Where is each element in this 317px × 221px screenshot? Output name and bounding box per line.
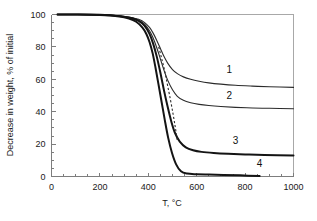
chart-figure: 02004006008001000020406080100 1234 T, °C… [0,0,317,221]
curve-2 [58,14,294,108]
chart-canvas: 02004006008001000020406080100 1234 T, °C… [0,0,317,221]
y-tick-label: 80 [35,42,45,52]
x-tick-label: 400 [141,182,156,192]
curve-1 [58,14,294,87]
data-curves [58,14,294,176]
y-tick-label: 60 [35,75,45,85]
y-tick-label: 100 [30,10,45,20]
y-tick-label: 0 [40,172,45,182]
y-axis-title: Decrease in weight, % of initial [5,34,15,157]
x-tick-label: 1000 [283,182,303,192]
curve-label-4: 4 [257,158,263,169]
curve-3 [58,14,294,155]
curve-label-2: 2 [227,90,233,101]
y-tick-label: 40 [35,107,45,117]
x-tick-label: 0 [49,182,54,192]
curve-label-1: 1 [227,64,233,75]
x-tick-label: 800 [238,182,253,192]
x-tick-label: 200 [92,182,107,192]
x-axis-title: T, °C [162,198,182,208]
x-tick-label: 600 [189,182,204,192]
curve-label-3: 3 [233,135,239,146]
y-tick-label: 20 [35,139,45,149]
